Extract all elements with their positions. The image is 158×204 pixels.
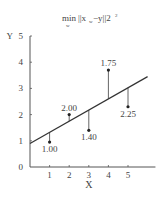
title-body: ||x (78, 13, 87, 23)
point-labels: 1.002.001.401.752.25 (42, 58, 137, 154)
title-rest: −y||2 (93, 13, 111, 23)
point-label: 2.00 (61, 103, 77, 113)
data-point (107, 68, 110, 71)
data-point (68, 113, 71, 116)
y-tick-label: 1 (19, 136, 24, 146)
y-tick-label: 0 (19, 162, 24, 172)
point-label: 1.40 (81, 132, 97, 142)
title-op: min (62, 13, 77, 23)
y-tick-label: 3 (19, 83, 24, 93)
x-tick-label: 5 (126, 170, 131, 180)
x-axis-label: X (85, 179, 93, 190)
point-label: 1.75 (101, 58, 117, 68)
x-tick-label: 2 (67, 170, 72, 180)
y-axis-label: Y (7, 31, 14, 41)
x-tick-label: 1 (47, 170, 52, 180)
point-label: 1.00 (42, 144, 58, 154)
regression-chart: min w ||x w −y||2 2 12345012345XY 1.002.… (0, 0, 158, 204)
title-op-sub: w (66, 23, 70, 28)
x-tick-label: 4 (106, 170, 111, 180)
y-tick-label: 4 (19, 57, 24, 67)
point-label: 2.25 (120, 109, 136, 119)
y-tick-label: 2 (19, 110, 24, 120)
title-sup: 2 (115, 13, 118, 18)
chart-title: min w ||x w −y||2 2 (62, 13, 118, 28)
y-tick-label: 5 (19, 31, 24, 41)
